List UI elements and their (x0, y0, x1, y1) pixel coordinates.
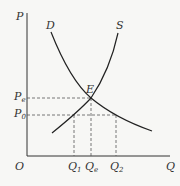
qe-label: Qe (85, 160, 98, 174)
x-axis-label: Q (166, 160, 175, 173)
q1-label: Q1 (68, 160, 82, 174)
q2-label: Q2 (110, 160, 124, 174)
origin-label: O (15, 160, 24, 173)
p0-label: P0 (13, 107, 26, 121)
supply-curve (52, 33, 118, 133)
y-axis-label: P (15, 10, 24, 23)
pe-label: Pe (13, 90, 26, 104)
supply-demand-diagram: P Q O D S E Pe P0 Q1 Qe Q2 (0, 0, 180, 186)
demand-label: D (45, 19, 55, 32)
equilibrium-label: E (85, 83, 94, 96)
supply-label: S (116, 19, 124, 32)
